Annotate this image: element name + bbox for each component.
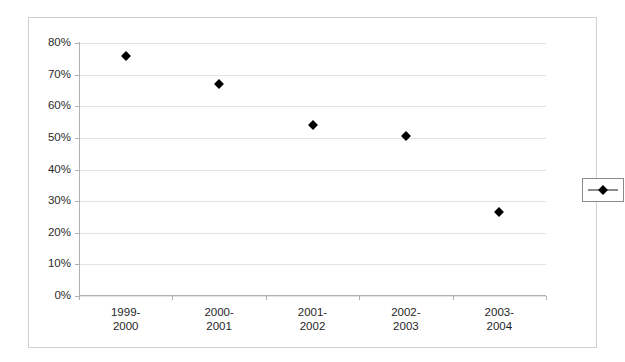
x-axis-tick-label-line: 2003: [391, 319, 420, 333]
y-axis-tick-label: 80%: [48, 37, 71, 49]
y-axis-tick-label: 50%: [48, 132, 71, 144]
gridline: [79, 296, 546, 297]
y-axis-line: [79, 42, 80, 296]
gridline: [79, 201, 546, 202]
x-axis-tick-mark: [266, 296, 267, 300]
y-axis-tick-label: 70%: [48, 69, 71, 81]
x-axis-line: [79, 295, 546, 296]
y-axis-tick-label: 0%: [54, 290, 71, 302]
gridline: [79, 233, 546, 234]
x-axis-tick-mark: [359, 296, 360, 300]
gridline: [79, 43, 546, 44]
x-axis-tick-label-line: 2001-: [298, 305, 327, 319]
chart-frame: 0%10%20%30%40%50%60%70%80% 1999-20002000…: [28, 17, 597, 348]
x-axis-tick-label-line: 2000-: [204, 305, 233, 319]
data-point-marker: [214, 79, 224, 89]
x-axis-tick-label-line: 2000: [111, 319, 140, 333]
data-point-marker: [401, 131, 411, 141]
data-point-marker: [494, 207, 504, 217]
x-axis-tick-label: 2002-2003: [391, 305, 420, 333]
gridline: [79, 106, 546, 107]
x-axis-tick-label: 2003-2004: [485, 305, 514, 333]
x-axis-tick-label: 2001-2002: [298, 305, 327, 333]
data-point-marker: [121, 51, 131, 61]
data-point-marker: [308, 120, 318, 130]
gridline: [79, 170, 546, 171]
y-axis-tick-label: 20%: [48, 227, 71, 239]
legend-series-marker-icon: [598, 185, 608, 195]
x-axis-tick-label-line: 2002-: [391, 305, 420, 319]
x-axis-tick-mark: [453, 296, 454, 300]
x-axis-tick-mark: [546, 296, 547, 300]
x-axis-tick-label-line: 2003-: [485, 305, 514, 319]
gridline: [79, 138, 546, 139]
x-axis-tick-label: 2000-2001: [204, 305, 233, 333]
gridline: [79, 75, 546, 76]
x-axis-tick-label: 1999-2000: [111, 305, 140, 333]
y-axis-tick-label: 40%: [48, 164, 71, 176]
y-axis-tick-label: 10%: [48, 259, 71, 271]
y-axis-tick-label: 30%: [48, 195, 71, 207]
x-axis-tick-mark: [172, 296, 173, 300]
x-axis-tick-label-line: 2002: [298, 319, 327, 333]
y-axis-tick-label: 60%: [48, 101, 71, 113]
gridline: [79, 264, 546, 265]
x-axis-tick-mark: [79, 296, 80, 300]
chart-legend[interactable]: [582, 178, 624, 202]
plot-area: 0%10%20%30%40%50%60%70%80% 1999-20002000…: [79, 43, 546, 296]
x-axis-tick-label-line: 1999-: [111, 305, 140, 319]
x-axis-tick-label-line: 2004: [485, 319, 514, 333]
x-axis-tick-label-line: 2001: [204, 319, 233, 333]
